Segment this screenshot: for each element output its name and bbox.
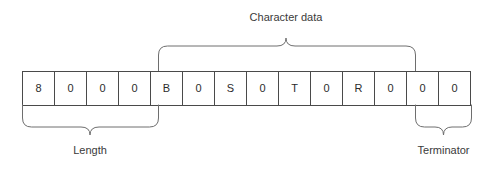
cell-value: 0: [195, 82, 201, 94]
cell-value: 8: [35, 82, 41, 94]
annotation-terminator: Terminator: [416, 105, 472, 156]
cell-value: 0: [387, 82, 393, 94]
cell-value: 0: [323, 82, 329, 94]
length-label: Length: [73, 144, 107, 156]
annotation-character-data: Character data: [159, 11, 416, 71]
cell-value: 0: [419, 82, 425, 94]
character-data-label: Character data: [250, 11, 324, 23]
cell-value: R: [355, 82, 363, 94]
diagram-canvas: Character data 8 0 0 0 B 0 S 0: [0, 0, 496, 170]
cell-value: 0: [131, 82, 137, 94]
annotation-length: Length: [23, 105, 159, 156]
character-data-brace: [159, 38, 416, 71]
length-brace: [23, 105, 159, 135]
cell-row: 8 0 0 0 B 0 S 0 T 0 R 0 0 0: [23, 72, 471, 106]
terminator-label: Terminator: [418, 144, 470, 156]
cell-value: 0: [67, 82, 73, 94]
cell-value: 0: [99, 82, 105, 94]
terminator-brace: [416, 105, 472, 135]
cell-value: T: [291, 82, 298, 94]
bstr-memory-layout-diagram: Character data 8 0 0 0 B 0 S 0: [0, 0, 496, 170]
cell-value: 0: [259, 82, 265, 94]
cell-value: S: [227, 82, 234, 94]
cell-value: B: [163, 82, 170, 94]
cell-value: 0: [451, 82, 457, 94]
